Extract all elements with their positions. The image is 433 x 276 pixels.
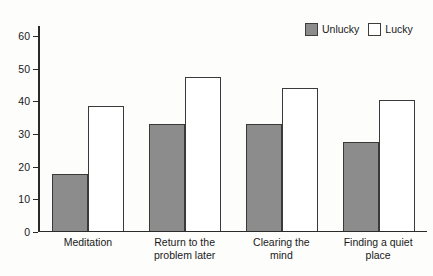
y-tick-mark bbox=[33, 101, 38, 102]
y-tick-mark bbox=[33, 69, 38, 70]
bar-group bbox=[233, 26, 330, 231]
y-tick-label: 60 bbox=[18, 30, 30, 42]
bar-lucky[interactable] bbox=[379, 100, 415, 231]
category-label: Meditation bbox=[40, 236, 137, 262]
bar-lucky[interactable] bbox=[185, 77, 221, 231]
y-tick-mark bbox=[33, 134, 38, 135]
category-label: Finding a quietplace bbox=[330, 236, 427, 262]
bar-group bbox=[40, 26, 137, 231]
bar-lucky[interactable] bbox=[282, 88, 318, 230]
y-tick-label: 50 bbox=[18, 63, 30, 75]
plot-area: 0102030405060 bbox=[38, 26, 427, 232]
y-tick-label: 30 bbox=[18, 128, 30, 140]
y-tick-label: 20 bbox=[18, 161, 30, 173]
bar-lucky[interactable] bbox=[88, 106, 124, 230]
y-tick-mark bbox=[33, 232, 38, 233]
y-tick-mark bbox=[33, 167, 38, 168]
y-tick-mark bbox=[33, 199, 38, 200]
y-tick-label: 10 bbox=[18, 193, 30, 205]
bar-chart: Unlucky Lucky 0102030405060 MeditationRe… bbox=[0, 0, 433, 276]
bar-group bbox=[330, 26, 427, 231]
x-axis-line bbox=[38, 231, 427, 233]
bar-groups bbox=[40, 26, 428, 231]
x-axis-category-labels: MeditationReturn to theproblem laterClea… bbox=[40, 236, 427, 262]
bar-unlucky[interactable] bbox=[343, 142, 379, 230]
bar-unlucky[interactable] bbox=[149, 124, 185, 230]
category-label: Return to theproblem later bbox=[136, 236, 233, 262]
y-tick-mark bbox=[33, 36, 38, 37]
bar-group bbox=[136, 26, 233, 231]
category-label: Clearing themind bbox=[233, 236, 330, 262]
bar-unlucky[interactable] bbox=[246, 124, 282, 230]
bar-unlucky[interactable] bbox=[52, 174, 88, 230]
y-tick-label: 0 bbox=[24, 226, 30, 238]
y-tick-label: 40 bbox=[18, 95, 30, 107]
